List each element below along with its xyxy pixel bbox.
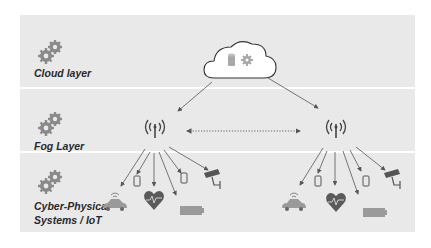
smartphone-icon [181, 173, 187, 183]
security-camera-icon [204, 169, 220, 189]
diagram-graphics [0, 0, 431, 248]
smartphone-icon [315, 176, 321, 186]
battery-icon [180, 206, 204, 215]
antenna-icon [146, 120, 165, 138]
connected-car-icon [103, 193, 127, 211]
smartphone-icon [363, 176, 369, 186]
connected-car-icon [282, 193, 306, 211]
antenna-icon [327, 120, 346, 138]
cloud-icon [204, 42, 276, 78]
cloud-to-fog-arrow-right [268, 78, 318, 108]
security-camera-icon [384, 169, 400, 189]
smartphone-icon [134, 176, 140, 186]
database-icon [228, 54, 235, 67]
battery-icon [363, 208, 387, 217]
cloud-to-fog-arrow-left [178, 82, 212, 111]
